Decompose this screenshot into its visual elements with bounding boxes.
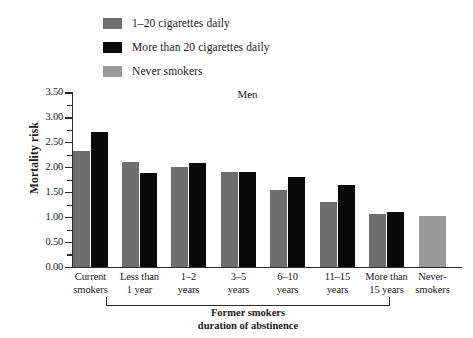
bar-heavy-smokers [387, 212, 404, 268]
bar-light-smokers [73, 151, 90, 268]
y-tick-major [65, 242, 73, 243]
bar-heavy-smokers [140, 173, 157, 268]
bar-heavy-smokers [189, 163, 206, 268]
bar-heavy-smokers [288, 177, 305, 268]
former-smokers-bracket [106, 297, 390, 306]
bar-never-smokers [419, 216, 446, 268]
bracket-label-line: Former smokers [106, 307, 390, 320]
y-tick-major [65, 267, 73, 268]
y-tick-label: 0.00 [23, 261, 63, 272]
bar-light-smokers [122, 162, 139, 268]
y-tick-label: 2.50 [23, 136, 63, 147]
y-tick-label: 0.50 [23, 236, 63, 247]
y-tick-label: 3.50 [23, 86, 63, 97]
y-tick-major [65, 92, 73, 93]
bar-heavy-smokers [91, 132, 108, 268]
bar-heavy-smokers [239, 172, 256, 268]
x-axis-label-line: smokers [403, 284, 463, 297]
chart-plot-area: Mortality risk 0.000.501.001.502.002.503… [0, 0, 473, 338]
bar-light-smokers [221, 172, 238, 268]
bar-light-smokers [171, 167, 188, 268]
bar-light-smokers [270, 190, 287, 268]
bar-heavy-smokers [338, 185, 355, 268]
y-tick-minor [67, 105, 73, 106]
y-tick-label: 3.00 [23, 111, 63, 122]
y-tick-minor [67, 130, 73, 131]
y-tick-label: 2.00 [23, 161, 63, 172]
x-axis-label-line: Never- [403, 271, 463, 284]
y-tick-major [65, 217, 73, 218]
x-axis-label: Never-smokers [403, 271, 463, 296]
y-tick-label: 1.50 [23, 186, 63, 197]
bracket-label-line: duration of abstinence [106, 320, 390, 333]
y-tick-major [65, 142, 73, 143]
y-tick-major [65, 117, 73, 118]
y-tick-label: 1.00 [23, 211, 63, 222]
bar-light-smokers [369, 214, 386, 268]
y-tick-major [65, 167, 73, 168]
bar-light-smokers [320, 202, 337, 268]
y-tick-major [65, 192, 73, 193]
former-smokers-bracket-label: Former smokersduration of abstinence [106, 307, 390, 332]
